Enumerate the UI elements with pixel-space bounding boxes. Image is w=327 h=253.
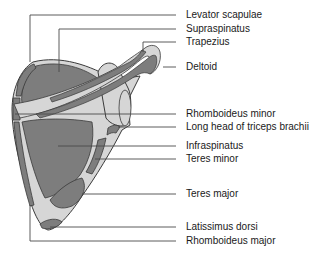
label-levator-scapulae: Levator scapulae: [186, 9, 262, 21]
label-supraspinatus: Supraspinatus: [186, 23, 250, 35]
label-latissimus-dorsi: Latissimus dorsi: [186, 221, 258, 233]
label-infraspinatus: Infraspinatus: [186, 140, 243, 152]
label-deltoid: Deltoid: [186, 61, 217, 73]
label-teres-major: Teres major: [186, 188, 238, 200]
label-rhomboideus-major: Rhomboideus major: [186, 235, 276, 247]
label-rhomboideus-minor: Rhomboideus minor: [186, 108, 276, 120]
label-teres-minor: Teres minor: [186, 153, 238, 165]
label-long-head-triceps: Long head of triceps brachii: [186, 121, 309, 133]
label-trapezius: Trapezius: [186, 36, 230, 48]
